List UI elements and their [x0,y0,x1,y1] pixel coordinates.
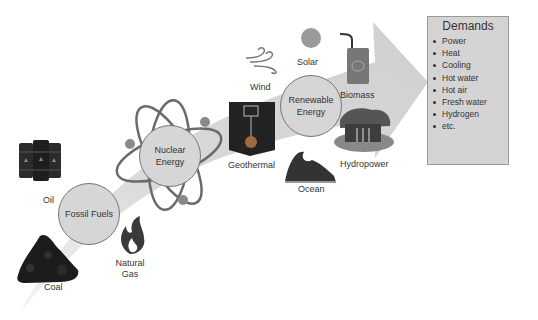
stage-label-line1: Renewable [288,94,333,106]
sun-icon [301,28,321,48]
demand-item: etc. [432,120,504,132]
geothermal-icon [229,102,275,156]
demand-item: Cooling [432,59,504,71]
stage-renewable-energy: Renewable Energy [280,75,342,137]
electron-icon [200,117,210,127]
label-solar: Solar [297,57,318,68]
demands-title: Demands [432,19,504,34]
demand-item: Hot water [432,72,504,84]
stage-label-line2: Energy [297,106,326,118]
electron-icon [178,195,188,205]
oil-barrels-icon [19,140,61,181]
stage-fossil-fuels: Fossil Fuels [58,183,120,245]
wind-icon [246,48,276,74]
label-oil: Oil [43,195,54,206]
label-biomass: Biomass [340,90,375,101]
flame-icon [121,216,144,254]
demand-item: Hot air [432,84,504,96]
label-hydropower: Hydropower [340,159,389,170]
label-ocean: Ocean [298,184,325,195]
electron-icon [125,139,135,149]
demand-item: Hydrogen [432,108,504,120]
label-geothermal: Geothermal [228,160,275,171]
demand-item: Heat [432,47,504,59]
demands-list: Power Heat Cooling Hot water Hot air Fre… [432,35,504,133]
demands-box: Demands Power Heat Cooling Hot water Hot… [427,16,509,165]
label-wind: Wind [250,82,271,93]
demand-item: Power [432,35,504,47]
label-natural-gas-line1: Natural [114,258,146,269]
label-natural-gas-line2: Gas [114,269,146,280]
stage-label-line2: Energy [156,156,185,168]
demand-item: Fresh water [432,96,504,108]
label-natural-gas: Natural Gas [114,258,146,280]
ocean-wave-icon [285,152,336,182]
stage-label-line1: Nuclear [154,144,185,156]
stage-nuclear-energy: Nuclear Energy [139,125,201,187]
stage-label: Fossil Fuels [65,208,113,220]
label-coal: Coal [44,282,63,293]
